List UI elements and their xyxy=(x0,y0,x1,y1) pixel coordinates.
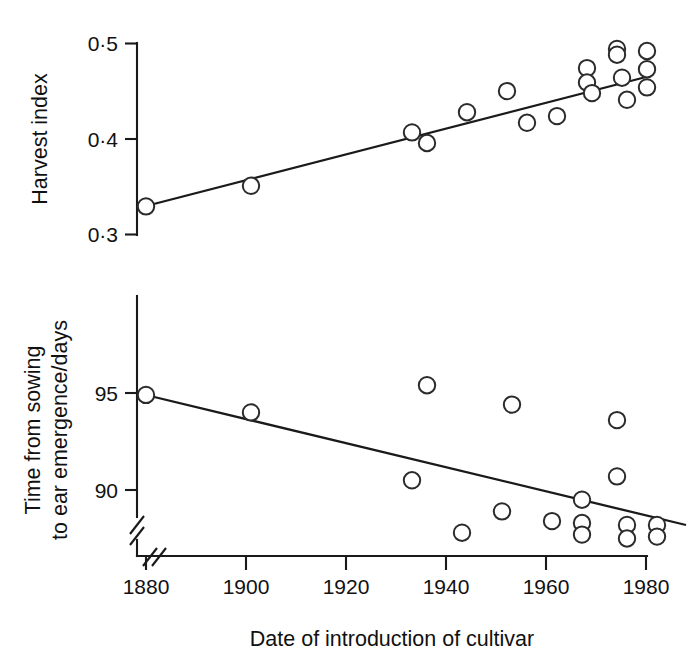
xticklabel-1880: 1880 xyxy=(123,575,170,598)
data-point xyxy=(243,178,259,194)
bottom-panel: 95 90 Time from sowing to ear emergence/… xyxy=(21,296,686,651)
top-y-axis-title: Harvest index xyxy=(28,73,52,205)
data-point xyxy=(549,108,565,124)
data-point xyxy=(404,124,420,140)
data-point xyxy=(574,526,590,542)
data-point xyxy=(639,43,655,59)
xticklabel-1920: 1920 xyxy=(323,575,370,598)
xticklabel-1980: 1980 xyxy=(623,575,670,598)
data-point xyxy=(639,79,655,95)
top-yticklabel-0.5: 0·5 xyxy=(88,32,118,55)
data-point xyxy=(243,404,259,420)
data-point xyxy=(609,412,625,428)
data-point xyxy=(504,396,520,412)
bottom-y-axis-title-line1: Time from sowing xyxy=(21,346,45,515)
x-axis-title: Date of introduction of cultivar xyxy=(250,627,534,651)
data-point xyxy=(419,135,435,151)
top-panel: 0·5 0·4 0·3 Harvest index xyxy=(28,32,655,246)
data-point xyxy=(574,492,590,508)
top-yticklabel-0.4: 0·4 xyxy=(88,128,119,151)
data-point xyxy=(494,503,510,519)
data-point xyxy=(649,528,665,544)
data-point xyxy=(544,513,560,529)
data-point xyxy=(639,61,655,77)
data-point xyxy=(619,92,635,108)
data-point xyxy=(609,468,625,484)
data-point xyxy=(609,47,625,63)
xticklabel-1940: 1940 xyxy=(423,575,470,598)
data-point xyxy=(614,70,630,86)
xticklabel-1900: 1900 xyxy=(223,575,270,598)
data-point xyxy=(619,530,635,546)
top-yticklabel-0.3: 0·3 xyxy=(88,223,118,246)
data-point xyxy=(499,83,515,99)
data-point xyxy=(404,472,420,488)
data-point xyxy=(454,525,470,541)
bottom-yticklabel-95: 95 xyxy=(95,382,118,405)
data-point xyxy=(459,104,475,120)
data-point xyxy=(519,115,535,131)
data-point xyxy=(138,387,154,403)
chart-canvas: 0·5 0·4 0·3 Harvest index xyxy=(0,0,694,668)
bottom-data-points xyxy=(138,377,665,547)
top-trend-line xyxy=(146,77,646,206)
xticklabel-1960: 1960 xyxy=(523,575,570,598)
data-point xyxy=(584,85,600,101)
data-point xyxy=(138,198,154,214)
bottom-trend-line xyxy=(146,395,686,525)
bottom-y-axis-title-line2: to ear emergence/days xyxy=(48,320,72,540)
figure-container: 0·5 0·4 0·3 Harvest index xyxy=(0,0,694,668)
data-point xyxy=(419,377,435,393)
bottom-yticklabel-90: 90 xyxy=(95,479,118,502)
